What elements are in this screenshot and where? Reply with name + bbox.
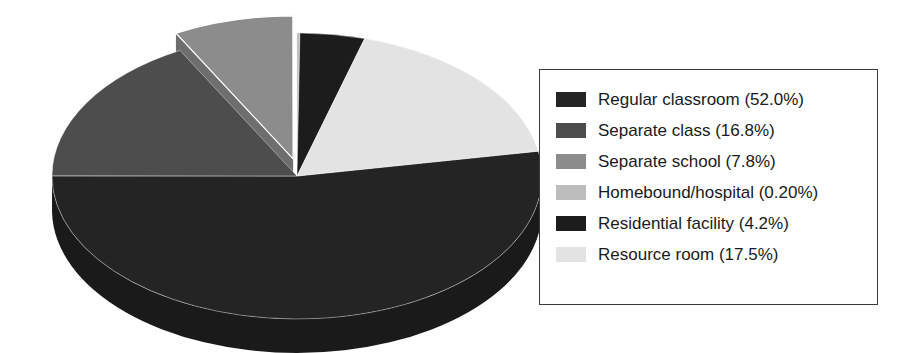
pie-chart-area bbox=[0, 0, 540, 353]
legend-item: Homebound/hospital (0.20%) bbox=[556, 177, 869, 208]
legend-color-swatch bbox=[556, 247, 586, 262]
legend-item-label: Regular classroom (52.0%) bbox=[598, 91, 804, 108]
legend-item-label: Separate school (7.8%) bbox=[598, 153, 776, 170]
legend-color-swatch bbox=[556, 92, 586, 107]
legend-item: Residential facility (4.2%) bbox=[556, 208, 869, 239]
legend-color-swatch bbox=[556, 216, 586, 231]
legend-color-swatch bbox=[556, 154, 586, 169]
legend-item: Resource room (17.5%) bbox=[556, 239, 869, 270]
legend-item: Separate school (7.8%) bbox=[556, 146, 869, 177]
legend-item-label: Homebound/hospital (0.20%) bbox=[598, 184, 818, 201]
legend-item-label: Residential facility (4.2%) bbox=[598, 215, 789, 232]
legend-item-list: Regular classroom (52.0%)Separate class … bbox=[556, 84, 869, 270]
legend-item: Separate class (16.8%) bbox=[556, 115, 869, 146]
legend-item-label: Resource room (17.5%) bbox=[598, 246, 778, 263]
legend-color-swatch bbox=[556, 123, 586, 138]
legend-color-swatch bbox=[556, 185, 586, 200]
pie-chart-graphic bbox=[0, 0, 540, 353]
legend-item-label: Separate class (16.8%) bbox=[598, 122, 775, 139]
chart-legend: Regular classroom (52.0%)Separate class … bbox=[539, 69, 878, 305]
legend-item: Regular classroom (52.0%) bbox=[556, 84, 869, 115]
